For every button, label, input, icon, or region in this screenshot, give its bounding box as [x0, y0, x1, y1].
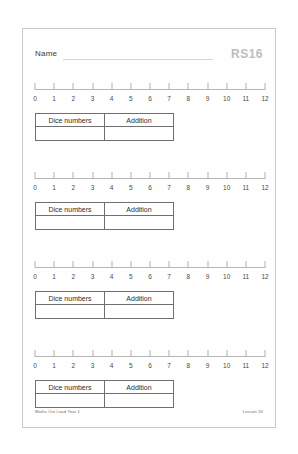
number-line-tick — [54, 172, 55, 179]
number-line-tick-label: 1 — [52, 362, 56, 369]
column-header-addition: Addition — [105, 114, 174, 127]
number-line[interactable]: 0123456789101112 — [35, 348, 265, 374]
number-line-tick — [226, 172, 227, 179]
number-line-tick — [207, 350, 208, 357]
dice-addition-table[interactable]: Dice numbers Addition — [35, 202, 174, 230]
answer-cell-addition[interactable] — [105, 127, 174, 141]
number-line-tick — [92, 350, 93, 357]
table-header-row: Dice numbers Addition — [36, 381, 174, 394]
number-line-tick-label: 8 — [187, 184, 191, 191]
worksheet-code-label: RS16 — [231, 47, 263, 61]
number-line-tick-label: 4 — [110, 95, 114, 102]
number-line-tick-label: 1 — [52, 184, 56, 191]
number-line-tick — [92, 83, 93, 90]
number-line-tick-label: 3 — [91, 362, 95, 369]
number-line-tick-label: 4 — [110, 362, 114, 369]
number-line-tick — [226, 83, 227, 90]
number-line-tick — [150, 261, 151, 268]
answer-cell-dice-numbers[interactable] — [36, 394, 105, 408]
number-line-tick-label: 10 — [223, 184, 230, 191]
number-line-tick-label: 10 — [223, 273, 230, 280]
number-line-tick — [169, 350, 170, 357]
name-label: Name — [35, 49, 57, 58]
number-line-tick-label: 1 — [52, 95, 56, 102]
number-line-tick — [92, 261, 93, 268]
number-line-tick-label: 12 — [261, 362, 268, 369]
number-line-tick-label: 4 — [110, 184, 114, 191]
number-line-tick — [245, 83, 246, 90]
number-line-tick — [265, 83, 266, 90]
number-line[interactable]: 0123456789101112 — [35, 170, 265, 196]
number-line[interactable]: 0123456789101112 — [35, 81, 265, 107]
number-line-tick — [207, 172, 208, 179]
number-line-tick — [150, 172, 151, 179]
number-line-tick-label: 2 — [72, 184, 76, 191]
number-line-tick — [245, 350, 246, 357]
number-line-tick — [35, 261, 36, 268]
number-line-tick-label: 6 — [148, 184, 152, 191]
column-header-dice-numbers: Dice numbers — [36, 292, 105, 305]
table-row — [36, 394, 174, 408]
table-row — [36, 127, 174, 141]
answer-cell-addition[interactable] — [105, 216, 174, 230]
number-line-tick — [150, 83, 151, 90]
number-line-tick — [245, 261, 246, 268]
footer-lesson-label: Lesson 53 — [243, 409, 263, 414]
number-line-tick-label: 10 — [223, 95, 230, 102]
column-header-addition: Addition — [105, 381, 174, 394]
number-line-tick — [130, 350, 131, 357]
number-line-tick — [130, 172, 131, 179]
answer-cell-addition[interactable] — [105, 394, 174, 408]
number-line-tick-label: 5 — [129, 273, 133, 280]
number-line-tick-label: 12 — [261, 273, 268, 280]
number-line-tick-label: 9 — [206, 362, 210, 369]
number-line-tick — [226, 350, 227, 357]
number-line-tick — [111, 83, 112, 90]
answer-cell-dice-numbers[interactable] — [36, 216, 105, 230]
number-line-tick-label: 9 — [206, 273, 210, 280]
number-line-tick-label: 8 — [187, 362, 191, 369]
number-line-tick — [73, 172, 74, 179]
number-line-tick-label: 0 — [33, 95, 37, 102]
number-line-tick-label: 5 — [129, 362, 133, 369]
number-line-tick — [188, 261, 189, 268]
answer-cell-dice-numbers[interactable] — [36, 127, 105, 141]
answer-cell-dice-numbers[interactable] — [36, 305, 105, 319]
number-line-tick — [207, 261, 208, 268]
number-line-tick-label: 2 — [72, 362, 76, 369]
number-line-tick — [188, 83, 189, 90]
table-row — [36, 305, 174, 319]
number-line-tick-label: 11 — [242, 184, 249, 191]
dice-addition-table[interactable]: Dice numbers Addition — [35, 291, 174, 319]
worksheet-footer: Maths Out Loud Year 1 Lesson 53 — [23, 409, 275, 419]
number-line-tick — [169, 261, 170, 268]
number-line-tick-label: 7 — [167, 362, 171, 369]
number-line-tick-label: 3 — [91, 95, 95, 102]
number-line-tick-label: 12 — [261, 95, 268, 102]
number-line-tick-label: 0 — [33, 273, 37, 280]
number-line-tick — [111, 350, 112, 357]
number-line-tick-label: 5 — [129, 95, 133, 102]
number-line[interactable]: 0123456789101112 — [35, 259, 265, 285]
number-line-tick-label: 8 — [187, 273, 191, 280]
worksheet-header: Name RS16 — [23, 47, 275, 69]
number-line-tick — [35, 350, 36, 357]
number-line-tick-label: 7 — [167, 184, 171, 191]
number-line-tick — [150, 350, 151, 357]
number-line-tick — [130, 261, 131, 268]
number-line-tick — [265, 350, 266, 357]
number-line-tick-label: 2 — [72, 95, 76, 102]
column-header-dice-numbers: Dice numbers — [36, 114, 105, 127]
number-line-tick-label: 5 — [129, 184, 133, 191]
footer-source-text: Maths Out Loud Year 1 — [35, 409, 80, 414]
dice-addition-table[interactable]: Dice numbers Addition — [35, 113, 174, 141]
dice-addition-table[interactable]: Dice numbers Addition — [35, 380, 174, 408]
answer-cell-addition[interactable] — [105, 305, 174, 319]
number-line-tick-label: 11 — [242, 95, 249, 102]
number-line-tick — [265, 261, 266, 268]
number-line-tick-label: 9 — [206, 95, 210, 102]
name-write-line[interactable] — [63, 59, 213, 60]
number-line-tick — [245, 172, 246, 179]
number-line-tick-label: 10 — [223, 362, 230, 369]
table-header-row: Dice numbers Addition — [36, 203, 174, 216]
